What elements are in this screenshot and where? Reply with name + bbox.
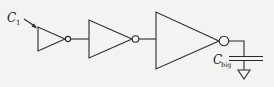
inverter-1 [38,27,71,51]
load-capacitor-icon [229,57,263,71]
output-wire [229,41,244,56]
c1-arrow-icon [24,19,37,29]
c1-label-sub: 1 [16,19,20,27]
inverter-2 [89,20,139,58]
input-capacitance-label: C 1 [7,11,20,27]
load-capacitance-label: C big [213,53,231,69]
inverter-chain-diagram: C 1 C big [0,0,274,87]
ground-icon [238,70,250,79]
c1-label-main: C [7,11,16,25]
cbig-label-sub: big [221,61,231,69]
